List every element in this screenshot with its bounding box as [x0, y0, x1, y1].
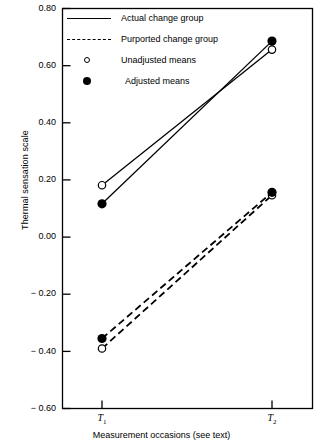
legend-key-dashed-line: [63, 31, 119, 49]
legend-key-open-circle: [63, 52, 119, 70]
x-tick-label-t1: T1: [82, 412, 122, 428]
legend-label-adjusted-means: Adjusted means: [125, 76, 190, 87]
legend-label-actual-change-group: Actual change group: [121, 13, 204, 24]
legend-key-solid-line: [63, 10, 119, 28]
legend-label-unadjusted-means: Unadjusted means: [121, 55, 196, 66]
solid-line-icon: [67, 18, 111, 19]
legend-item-unadjusted-means: Unadjusted means: [63, 52, 243, 70]
filled-circle-icon: [83, 77, 91, 85]
legend: Actual change group Purported change gro…: [63, 10, 243, 92]
open-circle-icon: [84, 57, 90, 63]
x-axis-title: Measurement occasions (see text): [0, 430, 323, 440]
legend-item-adjusted-means: Adjusted means: [63, 73, 243, 91]
thermal-sensation-line-chart: 0.80 0.60 0.40 0.20 0.00 − 0.20 − 0.40 −…: [0, 0, 323, 445]
legend-key-filled-circle: [63, 73, 119, 91]
x-tick-label-t2: T2: [252, 412, 292, 428]
x-tick-label-t1-subscript: 1: [103, 418, 107, 426]
legend-item-actual-change-group: Actual change group: [63, 10, 243, 28]
x-tick-label-t2-subscript: 2: [273, 418, 277, 426]
legend-label-purported-change-group: Purported change group: [121, 34, 218, 45]
legend-item-purported-change-group: Purported change group: [63, 31, 243, 49]
dashed-line-icon: [67, 39, 111, 40]
